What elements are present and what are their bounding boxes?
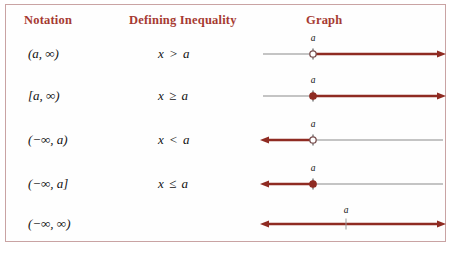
interval-notation: (−∞, a) [28, 132, 68, 148]
interval-notation-figure: Notation Defining Inequality Graph (a, ∞… [5, 4, 446, 242]
defining-inequality: x ≥ a [158, 88, 189, 104]
arrowhead-right [437, 220, 446, 227]
column-header-inequality: Defining Inequality [129, 13, 237, 28]
number-line-svg [259, 209, 447, 239]
column-header-notation: Notation [24, 13, 72, 28]
number-line-graph: a [259, 163, 447, 205]
notation-row: (−∞, ∞)a [6, 203, 445, 245]
defining-inequality: x < a [158, 132, 191, 148]
arrowhead-right [437, 50, 446, 57]
arrowhead-left [260, 136, 269, 143]
point-label-a: a [311, 33, 316, 43]
arrowhead-right [437, 92, 446, 99]
open-endpoint-circle [310, 51, 316, 57]
number-line-svg [259, 125, 447, 155]
column-header-graph: Graph [306, 13, 342, 28]
closed-endpoint-dot [310, 181, 316, 187]
number-line-graph: a [259, 203, 447, 245]
defining-inequality: x > a [158, 46, 191, 62]
number-line-svg [259, 39, 447, 69]
notation-row: [a, ∞)x ≥ aa [6, 75, 445, 117]
notation-row: (a, ∞)x > aa [6, 33, 445, 75]
interval-notation: [a, ∞) [28, 88, 60, 104]
defining-inequality: x ≤ a [158, 176, 189, 192]
notation-row: (−∞, a)x < aa [6, 119, 445, 161]
interval-notation: (−∞, ∞) [28, 216, 70, 232]
number-line-graph: a [259, 33, 447, 75]
arrowhead-left [260, 180, 269, 187]
point-label-a: a [311, 119, 316, 129]
closed-endpoint-dot [310, 93, 316, 99]
interval-notation: (−∞, a] [28, 176, 68, 192]
point-label-a: a [311, 75, 316, 85]
number-line-svg [259, 169, 447, 199]
number-line-graph: a [259, 119, 447, 161]
notation-row: (−∞, a]x ≤ aa [6, 163, 445, 205]
point-label-a: a [311, 163, 316, 173]
point-label-a: a [344, 205, 349, 215]
number-line-graph: a [259, 75, 447, 117]
open-endpoint-circle [310, 137, 316, 143]
number-line-svg [259, 81, 447, 111]
arrowhead-left [260, 220, 269, 227]
interval-notation: (a, ∞) [28, 46, 59, 62]
